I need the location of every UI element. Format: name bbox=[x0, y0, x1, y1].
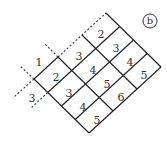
outside-label-bottom-left: 3 bbox=[29, 92, 36, 105]
figure-label-text: b bbox=[147, 15, 153, 26]
cell-r1c0: 3 bbox=[76, 50, 83, 63]
cell-r0c1: 3 bbox=[66, 87, 73, 100]
cell-r2c1: 3 bbox=[113, 42, 120, 55]
cell-r1c2: 5 bbox=[104, 78, 111, 91]
cell-r1c1: 4 bbox=[90, 64, 97, 77]
outside-label-top-left: 1 bbox=[36, 56, 43, 69]
cell-r0c2: 4 bbox=[80, 101, 87, 114]
cell-r2c3: 5 bbox=[141, 69, 148, 82]
dashed-lines bbox=[13, 13, 106, 108]
cell-r0c3: 5 bbox=[94, 114, 101, 127]
cell-r0c0: 2 bbox=[53, 71, 60, 84]
cell-r1c3: 6 bbox=[118, 91, 125, 104]
figure-label: b bbox=[143, 14, 157, 28]
staircase-grid-diagram: 2 3 4 5 3 4 5 6 2 3 4 5 1 3 b bbox=[0, 0, 167, 144]
cell-numbers: 2 3 4 5 3 4 5 6 2 3 4 5 1 3 bbox=[29, 28, 148, 127]
cell-r2c0: 2 bbox=[98, 28, 105, 41]
cell-r2c2: 4 bbox=[127, 56, 134, 69]
